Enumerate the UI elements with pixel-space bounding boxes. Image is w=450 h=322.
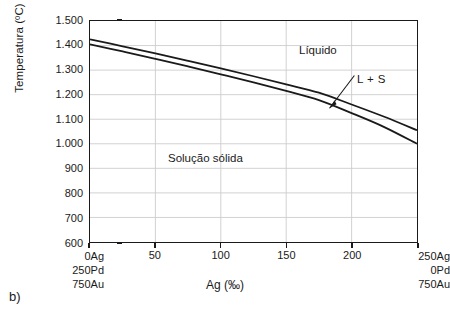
x-tick-label: 50 xyxy=(149,249,161,261)
x-tick-mark xyxy=(351,243,353,248)
y-tick-label: 1.000 xyxy=(37,138,83,149)
endmember-right-line-1: 250Ag xyxy=(388,249,450,263)
y-tick-label: 1.300 xyxy=(37,64,83,75)
x-tick-mark xyxy=(220,243,222,248)
figure-label: b) xyxy=(9,290,21,304)
region-label-solucao-solida: Solução sólida xyxy=(168,152,243,164)
x-axis-title: Ag (‰) xyxy=(165,278,285,292)
y-tick-label: 700 xyxy=(37,213,83,224)
endmember-right-line-2: 0Pd xyxy=(388,263,450,277)
endmember-left-line-2: 250Pd xyxy=(34,263,104,277)
x-tick-mark xyxy=(417,243,419,248)
x-tick-mark xyxy=(154,243,156,248)
endmember-left-line-3: 750Au xyxy=(34,277,104,291)
x-tick-label: 150 xyxy=(277,249,295,261)
endmember-composition-right: 250Ag 0Pd 750Au xyxy=(388,249,450,291)
plot-area xyxy=(89,20,418,243)
curve-solidus xyxy=(90,44,417,143)
x-tick-label: 100 xyxy=(211,249,229,261)
x-tick-mark xyxy=(286,243,288,248)
y-tick-label: 1.500 xyxy=(37,15,83,26)
endmember-right-line-3: 750Au xyxy=(388,277,450,291)
endmember-left-line-1: 0Ag xyxy=(34,249,104,263)
phase-boundary-curves xyxy=(90,39,417,143)
region-label-l-plus-s: L + S xyxy=(357,73,386,85)
y-axis-tick-labels: 6007008009001.0001.1001.2001.3001.4001.5… xyxy=(33,20,83,243)
x-tick-mark xyxy=(88,243,90,248)
x-axis-tick-labels: 0Ag50100150200250Ag xyxy=(89,249,418,263)
endmember-composition-left: 0Ag 250Pd 750Au xyxy=(34,249,104,291)
y-axis-title: Temperatura (ºC) xyxy=(13,0,25,128)
y-tick-label: 800 xyxy=(37,188,83,199)
x-tick-label: 200 xyxy=(343,249,361,261)
region-label-liquido: Líquido xyxy=(299,44,337,56)
y-tick-label: 1.100 xyxy=(37,114,83,125)
plot-canvas xyxy=(90,21,417,242)
y-tick-label: 900 xyxy=(37,163,83,174)
y-tick-label: 1.200 xyxy=(37,89,83,100)
y-tick-label: 1.400 xyxy=(37,39,83,50)
y-tick-label: 600 xyxy=(37,238,83,249)
grid-lines xyxy=(90,21,417,242)
